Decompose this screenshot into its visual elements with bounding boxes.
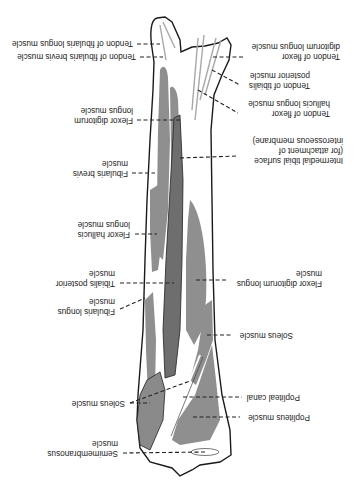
- label-soleus-right: Soleus muscle: [239, 331, 293, 340]
- label-intermedial-surface: Intermedial tibial surface (for attachme…: [252, 136, 343, 165]
- label-tendon-flexor-digitorum: Tendon of flexor digitorum longus muscle: [251, 42, 340, 61]
- label-popliteal-canal: Popliteal canal: [247, 393, 300, 402]
- label-tendon-fibularis-longus: Tendon of fibularis longus muscle: [11, 39, 133, 48]
- label-tendon-flexor-hallucis: Tendon of flexor hallucis longus muscle: [248, 99, 330, 118]
- label-semimembranosus: Semimembranosus muscle: [45, 439, 118, 458]
- label-fibularis-longus: Fibularis longus muscle: [55, 297, 115, 316]
- label-flexor-digitorum-lower: Flexor digitorum longus muscle: [235, 269, 322, 288]
- label-tendon-tibialis-posterior: Tendon of tibialis posterior muscle: [247, 71, 310, 90]
- label-flexor-digitorum-upper: Flexor digitorum longus muscle: [72, 106, 133, 125]
- label-tendon-fibularis-brevis: Tendon of fibularis brevis muscle: [17, 52, 136, 61]
- label-soleus-left: Soleus muscle: [71, 399, 125, 408]
- label-fibularis-brevis: Fibularis brevis muscle: [71, 159, 128, 178]
- label-tibialis-posterior: Tibialis posterior muscle: [53, 269, 115, 288]
- label-flexor-hallucis: Flexor hallucis longus muscle: [75, 220, 130, 239]
- label-popliteus: Popliteus muscle: [248, 413, 310, 422]
- tibia-diagram: Tendon of fibularis longus muscle Tendon…: [0, 0, 360, 487]
- anatomy-figure: Tendon of fibularis longus muscle Tendon…: [0, 0, 360, 487]
